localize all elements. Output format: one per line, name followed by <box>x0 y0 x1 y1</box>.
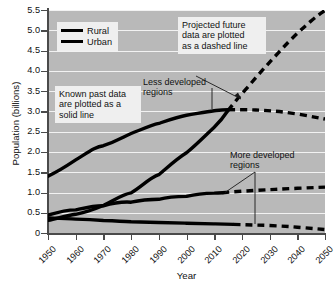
series-line-more-developed-rural-past <box>48 218 234 225</box>
population-chart-figure: 5.5 5.0 4.5 4.0 3.5 3.0 2.5 2.0 1.5 1.0 … <box>0 0 336 290</box>
series-line-more-developed-urban-future <box>223 187 326 193</box>
annotation-more-developed-regions: More developed regions <box>226 147 318 174</box>
legend-swatch-urban-icon <box>61 40 83 43</box>
legend-item-urban: Urban <box>61 36 112 47</box>
legend-label-rural: Rural <box>87 26 109 36</box>
chart-curves-overlay <box>0 0 336 290</box>
annotation-known-past-data: Known past data are plotted as a solid l… <box>55 86 141 123</box>
annotation-projected-future-data: Projected future data are plotted as a d… <box>178 17 266 54</box>
annotation-less-developed-regions: Less developed regions <box>139 74 225 101</box>
legend-label-urban: Urban <box>87 37 112 47</box>
series-line-more-developed-rural-future <box>234 224 326 229</box>
legend-swatch-rural-icon <box>61 29 83 32</box>
legend-item-rural: Rural <box>61 25 112 36</box>
series-line-less-developed-urban-past <box>48 111 228 221</box>
series-line-less-developed-rural-future <box>228 110 325 119</box>
chart-legend: Rural Urban <box>57 22 118 51</box>
series-line-more-developed-urban-past <box>48 193 223 215</box>
